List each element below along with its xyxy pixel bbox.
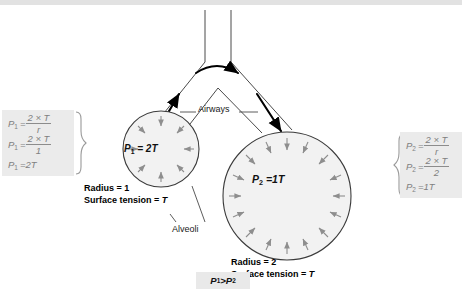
alveoli-leader-left [170, 214, 176, 222]
large-alveolus-tension-symbol: T [309, 269, 315, 279]
right-formula-line-1: P2 = 2 × T r [406, 135, 449, 157]
right-formula-1-fraction: 2 × T r [424, 135, 450, 157]
left-formula-line-1: P1 = 2 × T r [8, 113, 51, 135]
comparison-right-subscript: 2 [232, 277, 236, 284]
left-formula-2-fraction: 2 × T 1 [26, 134, 52, 156]
left-formula-2-lhs: P1 [8, 139, 18, 151]
left-formula-1-lhs: P1 [8, 118, 18, 130]
large-alveolus-circle [223, 132, 351, 260]
small-alveolus-caption: Radius = 1 Surface tension = T [84, 183, 167, 206]
small-alveolus-pressure-symbol: P [124, 143, 131, 154]
right-formula-panel: P2 = 2 × T r P2 = 2 × T 2 P2 = 1T [400, 132, 462, 198]
figure-canvas: P1 = 2 × T r P1 = 2 × T 1 P1 = 2T P2 [0, 0, 462, 297]
left-formula-panel: P1 = 2 × T r P1 = 2 × T 1 P1 = 2T [2, 110, 74, 176]
left-formula-line-2: P1 = 2 × T 1 [8, 134, 51, 156]
small-alveolus-tension-text: Surface tension = [84, 195, 162, 205]
right-formula-result-lhs: P2 [406, 181, 416, 193]
large-alveolus-pressure-label: P2 =1T [252, 173, 284, 187]
left-brace [76, 112, 86, 174]
large-alveolus-pressure-subscript: 2 [259, 179, 263, 187]
left-formula-2-denominator: 1 [34, 146, 43, 156]
right-formula-line-2: P2 = 2 × T 2 [406, 156, 449, 178]
left-formula-result-value: 2T [26, 159, 37, 170]
large-alveolus-radius-caption: Radius = 2 [231, 257, 314, 269]
right-formula-1-lhs: P2 [406, 140, 416, 152]
airflow-arrow-crossover [196, 66, 238, 73]
right-formula-2-numerator: 2 × T [424, 156, 450, 166]
small-alveolus-pressure-label: P1 = 2T [124, 143, 158, 155]
right-formula-result-value: 1T [424, 181, 435, 192]
small-alveolus-radius-caption: Radius = 1 [84, 183, 167, 195]
left-formula-2-numerator: 2 × T [26, 134, 52, 144]
right-formula-result: P2 = 1T [406, 181, 435, 193]
left-formula-1-fraction: 2 × T r [26, 113, 52, 135]
small-alveolus-pressure-value: = 2T [137, 143, 157, 154]
small-alveolus-pressure-subscript: 1 [131, 148, 135, 155]
small-alveolus-tension-caption: Surface tension = T [84, 195, 167, 207]
alveoli-leader-right [192, 186, 205, 222]
pressure-comparison-box: P1 > P2 [196, 272, 250, 289]
left-formula-1-numerator: 2 × T [26, 113, 52, 123]
right-formula-2-lhs: P2 [406, 161, 416, 173]
alveoli-callout-label: Alveoli [172, 224, 199, 234]
right-formula-1-numerator: 2 × T [424, 135, 450, 145]
large-alveolus-pressure-value: =1T [266, 173, 284, 185]
left-formula-result-lhs: P1 [8, 159, 18, 171]
airways-callout-label: Airways [198, 104, 230, 114]
small-alveolus-tension-symbol: T [162, 195, 168, 205]
right-formula-2-fraction: 2 × T 2 [424, 156, 450, 178]
airflow-arrow-downward [257, 94, 281, 131]
large-alveolus-pressure-symbol: P [252, 173, 259, 185]
left-formula-result: P1 = 2T [8, 159, 37, 171]
right-formula-2-denominator: 2 [432, 168, 441, 178]
